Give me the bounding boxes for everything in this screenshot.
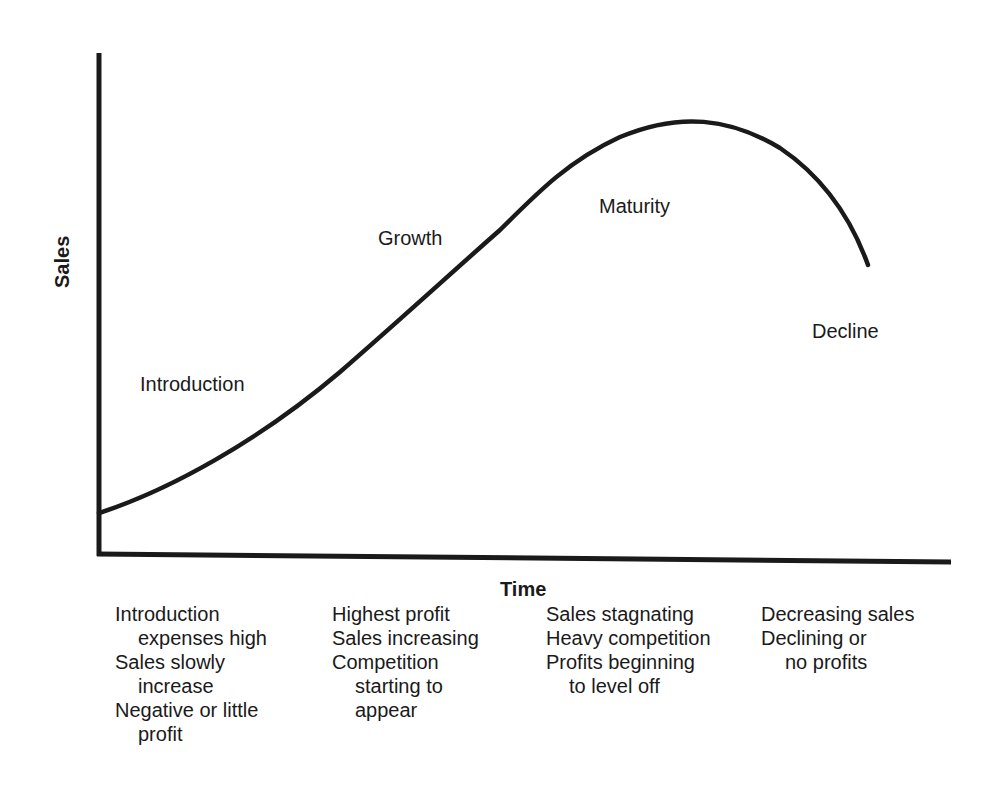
note-line: starting to [332, 674, 479, 698]
note-line: Sales slowly [115, 650, 267, 674]
notes-maturity: Sales stagnating Heavy competition Profi… [546, 602, 711, 698]
note-line: to level off [546, 674, 711, 698]
note-line: appear [332, 698, 479, 722]
note-line: Introduction [115, 602, 267, 626]
sales-curve [99, 121, 868, 513]
note-line: no profits [761, 650, 914, 674]
note-line: increase [115, 674, 267, 698]
note-line: Heavy competition [546, 626, 711, 650]
note-line: Declining or [761, 626, 914, 650]
note-line: Highest profit [332, 602, 479, 626]
stage-label-decline: Decline [812, 321, 879, 341]
note-line: Decreasing sales [761, 602, 914, 626]
x-axis [97, 554, 951, 562]
note-line: Sales increasing [332, 626, 479, 650]
note-line: Profits beginning [546, 650, 711, 674]
note-line: Sales stagnating [546, 602, 711, 626]
note-line: Negative or little [115, 698, 267, 722]
y-axis-label: Sales [52, 236, 72, 288]
notes-decline: Decreasing sales Declining or no profits [761, 602, 914, 674]
x-axis-label: Time [500, 579, 546, 599]
notes-growth: Highest profit Sales increasing Competit… [332, 602, 479, 722]
note-line: expenses high [115, 626, 267, 650]
stage-label-maturity: Maturity [599, 196, 670, 216]
stage-label-introduction: Introduction [140, 374, 245, 394]
note-line: Competition [332, 650, 479, 674]
stage-label-growth: Growth [378, 228, 442, 248]
note-line: profit [115, 722, 267, 746]
notes-introduction: Introduction expenses high Sales slowly … [115, 602, 267, 746]
